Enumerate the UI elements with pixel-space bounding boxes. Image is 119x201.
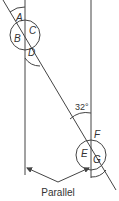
angle-label-A: A: [15, 12, 23, 23]
angle-label-C: C: [29, 25, 37, 36]
angle-label-B: B: [14, 33, 21, 44]
angle-label-E: E: [81, 148, 88, 159]
given-angle-label: 32°: [75, 102, 89, 112]
angle-label-D: D: [28, 47, 35, 58]
angle-label-F: F: [94, 129, 101, 140]
angle-label-G: G: [93, 154, 101, 165]
arrow-to-right-line: [58, 168, 89, 182]
angle-arc-G: [91, 170, 106, 177]
arrow-to-left-line: [27, 168, 58, 182]
diagram-canvas: A B C D 32° F E G Parallel: [0, 0, 119, 201]
parallel-caption: Parallel: [41, 187, 74, 198]
